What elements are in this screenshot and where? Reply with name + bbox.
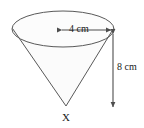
diameter-label: 4 cm bbox=[69, 24, 89, 34]
height-label: 8 cm bbox=[117, 62, 137, 72]
cone-diagram: 4 cm 8 cm X bbox=[0, 0, 144, 128]
apex-vertex-label: X bbox=[62, 112, 70, 123]
